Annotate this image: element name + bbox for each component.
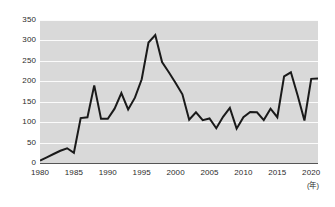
x-axis-tick-label: 2010 [226, 168, 260, 177]
x-axis-tick-label: 2015 [260, 168, 294, 177]
x-axis-line [40, 163, 318, 164]
y-axis-tick-label: 50 [2, 139, 36, 147]
x-axis-tick-label: 1995 [125, 168, 159, 177]
y-axis-tick-label: 100 [2, 118, 36, 126]
x-axis-tick-label: 2000 [159, 168, 193, 177]
x-axis-tick-label: 2020 [294, 168, 328, 177]
data-series-line [40, 35, 318, 160]
x-axis-tick-label: 2005 [193, 168, 227, 177]
x-axis-tick-label: 1985 [57, 168, 91, 177]
y-axis-tick-label: 0 [2, 159, 36, 167]
line-chart-figure: 050100150200250300350 198019851990199520… [0, 0, 335, 207]
y-axis-tick-label: 150 [2, 98, 36, 106]
x-axis-tick-label: 1980 [23, 168, 57, 177]
x-axis: 198019851990199520002005201020152020 [0, 168, 335, 182]
x-axis-tick-label: 1990 [91, 168, 125, 177]
y-axis-tick-label: 300 [2, 36, 36, 44]
data-line-svg [40, 20, 318, 163]
y-axis-tick-label: 200 [2, 77, 36, 85]
y-axis-tick-label: 250 [2, 57, 36, 65]
plot-area [40, 20, 318, 163]
y-axis-tick-label: 350 [2, 16, 36, 24]
x-axis-unit-label: (年) [296, 181, 330, 190]
